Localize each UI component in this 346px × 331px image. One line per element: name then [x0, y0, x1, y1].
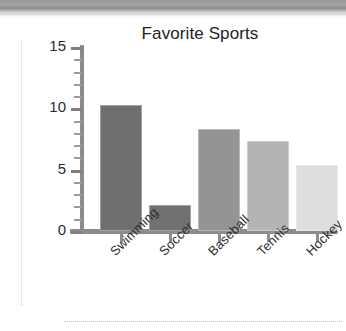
x-axis-tick-label: Tennis: [254, 221, 292, 259]
x-axis-tick-labels: SwimmingSoccerBaseballTennisHockey: [0, 0, 346, 331]
x-axis-tick-label: Hockey: [303, 216, 345, 258]
x-axis-tick-label: Baseball: [205, 212, 252, 259]
x-axis-tick-label: Soccer: [156, 219, 196, 259]
bar-chart: Favorite Sports 051015 SwimmingSoccerBas…: [0, 0, 346, 331]
x-axis-tick-label: Swimming: [107, 204, 161, 258]
